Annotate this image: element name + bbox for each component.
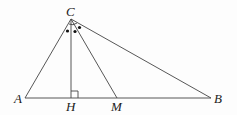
segment-ca [25,19,71,98]
angle-dot-3 [78,26,81,29]
label-a: A [13,91,22,106]
right-angle-mark [71,91,78,98]
geometry-diagram: C A H M B [0,0,237,115]
label-b: B [214,91,222,106]
label-c: C [66,4,75,19]
angle-dot-1 [66,29,69,32]
label-h: H [65,99,76,114]
angle-dot-2 [73,30,76,33]
segment-cm-median [71,19,117,98]
segment-cb [71,19,211,98]
label-m: M [110,99,123,114]
